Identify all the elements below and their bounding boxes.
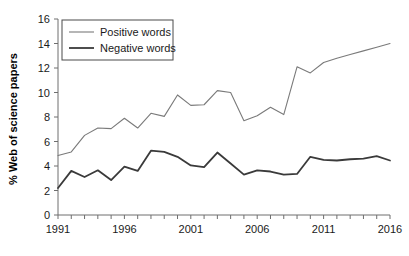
x-axis-tick-label: 2016 [378, 223, 402, 235]
line-chart: 0246810121416 199119962001200620112016 %… [0, 0, 409, 256]
legend-label-positive-words: Positive words [100, 26, 171, 38]
y-axis-tick-label: 8 [44, 111, 50, 123]
x-axis-tick-label: 2006 [245, 223, 269, 235]
x-axis-tick-label: 2011 [312, 223, 336, 235]
x-axis-tick-label: 1991 [46, 223, 70, 235]
y-axis-tick-label: 4 [44, 160, 50, 172]
y-axis-tick-label: 16 [38, 13, 50, 25]
y-axis-tick-label: 10 [38, 87, 50, 99]
y-axis-tick-label: 0 [44, 209, 50, 221]
y-axis-tick-label: 12 [38, 62, 50, 74]
x-axis-tick-label: 1996 [112, 223, 136, 235]
y-axis-tick-label: 14 [38, 38, 50, 50]
legend: Positive words Negative words [62, 20, 176, 60]
x-axis-tick-label: 2001 [179, 223, 203, 235]
legend-label-negative-words: Negative words [100, 42, 176, 54]
chart-screenshot: 0246810121416 199119962001200620112016 %… [0, 0, 409, 256]
y-axis-tick-label: 2 [44, 185, 50, 197]
y-axis-title: % Web of science papers [7, 53, 19, 185]
y-axis-tick-label: 6 [44, 136, 50, 148]
